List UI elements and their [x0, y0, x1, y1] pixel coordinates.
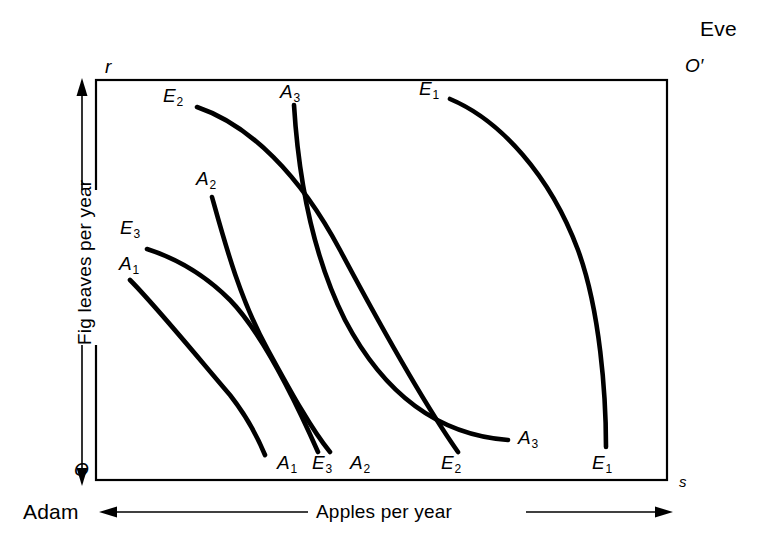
curve-start-label-E1: E1 [419, 79, 439, 98]
curve-end-label-A3: A3 [518, 428, 538, 447]
curve-E3 [147, 249, 318, 452]
curve-start-label-A1: A1 [119, 254, 139, 273]
diagram-canvas [0, 0, 765, 557]
curve-start-label-A2: A2 [196, 169, 216, 188]
curve-end-label-A2: A2 [350, 453, 370, 472]
axis-symbol-horizontal: s [679, 474, 687, 489]
agent-label-eve: Eve [700, 18, 737, 39]
curve-end-label-E1: E1 [592, 453, 612, 472]
agent-label-adam: Adam [23, 501, 79, 522]
curve-E1 [450, 99, 606, 447]
edgeworth-box-figure: E2 A3 E1 A2 E3 A1 A3 A1 E3 A2 E2 E1 Eve … [0, 0, 765, 557]
curve-A3 [294, 105, 508, 440]
axis-title-vertical: Fig leaves per year [75, 180, 94, 345]
curve-end-label-E3: E3 [312, 453, 332, 472]
curve-end-label-E2: E2 [441, 453, 461, 472]
axis-symbol-vertical: r [105, 57, 111, 76]
curve-end-label-A1: A1 [277, 453, 297, 472]
curve-start-label-E2: E2 [163, 86, 183, 105]
axis-title-horizontal: Apples per year [316, 502, 452, 521]
indifference-curves-group [130, 99, 606, 455]
curve-start-label-A3: A3 [280, 82, 300, 101]
edgeworth-box-frame [96, 80, 667, 480]
origin-label-eve: O′ [685, 56, 703, 75]
curve-start-label-E3: E3 [120, 218, 140, 237]
origin-label-adam: O [74, 460, 89, 479]
